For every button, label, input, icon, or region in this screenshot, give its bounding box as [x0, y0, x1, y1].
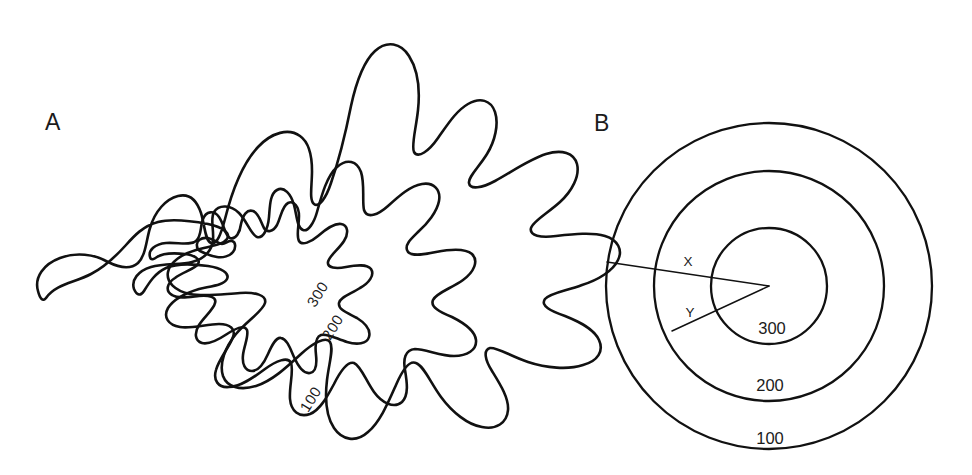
figure-root: A 300 200 100 B [0, 0, 972, 475]
ring-label-100: 100 [756, 429, 784, 447]
radial-label-y: Y [685, 305, 694, 320]
panel-b-letter: B [594, 110, 609, 136]
ring-label-200: 200 [756, 376, 784, 394]
ring-label-300: 300 [758, 319, 786, 337]
figure-background [0, 0, 972, 475]
radial-label-x: X [683, 254, 692, 269]
panel-a-letter: A [45, 109, 61, 135]
figure-canvas: A 300 200 100 B [0, 0, 972, 475]
